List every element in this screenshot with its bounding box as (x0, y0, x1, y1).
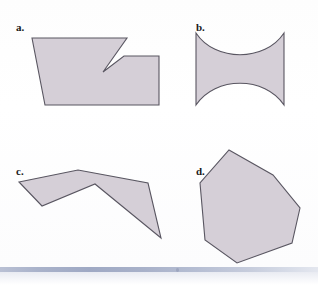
figure-page: a. b. c. d. (0, 0, 318, 285)
page-footer-strip (0, 267, 318, 285)
shape-d-polygon (200, 150, 300, 263)
shape-d-graphic (0, 0, 318, 285)
footer-fade-band (0, 272, 318, 285)
footer-speck (176, 268, 179, 272)
